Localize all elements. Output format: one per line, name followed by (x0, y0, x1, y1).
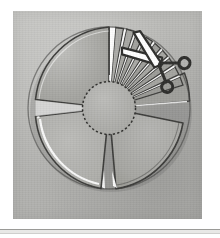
page-root (0, 0, 220, 238)
wedge-lower-left-tip-highlight (37, 117, 40, 118)
bottom-divider (0, 229, 220, 234)
wheel-illustration (13, 11, 202, 219)
figure-panel (13, 11, 202, 219)
figure-caption (13, 221, 202, 228)
hub-circle (83, 82, 136, 135)
